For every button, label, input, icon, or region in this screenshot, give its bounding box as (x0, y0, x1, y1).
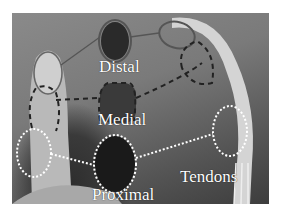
fingernail (35, 53, 61, 93)
proximal-connector-right (136, 134, 213, 158)
robot-chain-medial-dashed (181, 41, 213, 84)
label-distal: Distal (99, 58, 140, 75)
distal-connector-left (61, 37, 100, 65)
distal-pad (101, 22, 129, 60)
label-medial: Medial (98, 111, 146, 128)
label-proximal: Proximal (92, 186, 154, 203)
proximal-pad (95, 136, 135, 192)
label-tendons: Tendons (180, 168, 237, 185)
finger-comparison-photo: Distal Medial Proximal Tendons (12, 13, 269, 204)
distal-connector-right (130, 33, 159, 37)
